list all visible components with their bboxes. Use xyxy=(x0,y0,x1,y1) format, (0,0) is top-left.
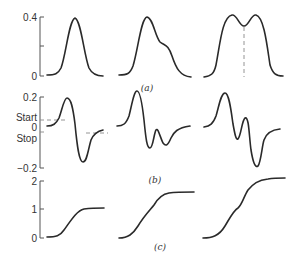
curve-a2 xyxy=(119,17,191,77)
curve-c2 xyxy=(119,192,194,238)
y-tick-label: −0.2 xyxy=(17,163,37,174)
curve-c3 xyxy=(203,178,285,238)
curve-b2 xyxy=(117,91,190,148)
curve-c1 xyxy=(47,208,104,237)
stop-label: Stop xyxy=(16,133,37,144)
panel-label-a: (a) xyxy=(141,83,154,93)
figure: 0.4 0 (a) 0.2 Start 0 Stop −0.2 (b) xyxy=(0,0,296,258)
y-tick-label: 0 xyxy=(31,233,37,244)
y-tick-label: 0 xyxy=(31,122,37,133)
y-tick-label: 0 xyxy=(31,71,37,82)
panel-b: 0.2 Start 0 Stop −0.2 (b) xyxy=(16,91,280,185)
panel-label-b: (b) xyxy=(149,175,162,185)
y-tick-label: 1 xyxy=(31,204,37,215)
panel-c: 2 1 0 (c) xyxy=(31,176,285,252)
curve-a3 xyxy=(204,15,283,77)
curve-a1 xyxy=(47,18,103,76)
curve-b3 xyxy=(204,93,280,166)
y-tick-label: 0.2 xyxy=(23,92,37,103)
panel-label-c: (c) xyxy=(154,242,167,252)
y-tick-label: 2 xyxy=(31,176,37,187)
curve-b1 xyxy=(47,98,103,162)
y-tick-label: 0.4 xyxy=(23,12,37,23)
panel-a: 0.4 0 (a) xyxy=(23,12,283,93)
